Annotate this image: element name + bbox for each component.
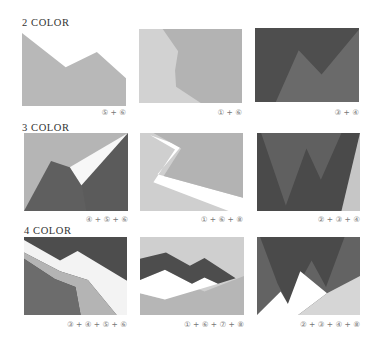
swatch-panel-1-6-7-8 <box>140 237 244 315</box>
swatch-panel-5-6 <box>22 33 126 106</box>
color-combo-label: ① + ⑥ + ⑦ + ⑧ <box>172 320 244 329</box>
color-combo-label: ① + ⑥ + ⑧ <box>185 215 243 224</box>
swatch-panel-3-4-5-6 <box>24 237 127 315</box>
color-combo-label: ④ + ⑤ + ⑥ <box>70 215 128 224</box>
swatch-panel-1-6 <box>139 29 242 103</box>
color-combo-label: ③ + ④ <box>313 108 359 117</box>
color-combo-label: ⑤ + ⑥ <box>80 108 126 117</box>
section-title-2-color: 2 COLOR <box>22 17 70 28</box>
color-combo-label: ③ + ④ + ⑤ + ⑥ <box>55 320 127 329</box>
section-title-4-color: 4 COLOR <box>24 225 72 236</box>
color-combo-label: ① + ⑥ <box>196 108 242 117</box>
section-title-3-color: 3 COLOR <box>22 122 70 133</box>
color-combo-label: ② + ③ + ④ <box>302 215 360 224</box>
swatch-panel-3-4 <box>255 28 359 102</box>
swatch-panel-4-5-6 <box>24 133 128 211</box>
color-combo-label: ② + ③ + ④ + ⑧ <box>286 320 360 329</box>
swatch-panel-1-6-8 <box>140 133 243 211</box>
swatch-panel-2-3-4 <box>257 133 360 211</box>
swatch-panel-2-3-4-8 <box>257 237 360 315</box>
